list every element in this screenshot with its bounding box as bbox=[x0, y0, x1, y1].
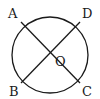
label-c: C bbox=[82, 84, 92, 99]
label-a: A bbox=[7, 6, 18, 21]
circle bbox=[12, 17, 88, 93]
label-b: B bbox=[9, 84, 19, 99]
circle-diagram: A D O B C bbox=[0, 0, 100, 99]
label-o: O bbox=[55, 54, 66, 69]
label-d: D bbox=[82, 6, 92, 21]
